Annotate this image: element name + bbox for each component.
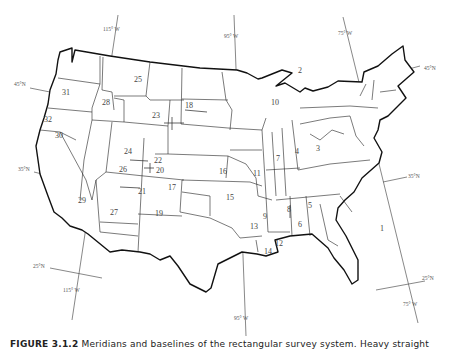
meridian-number-26: 26 — [119, 166, 127, 174]
meridian-number-28: 28 — [102, 99, 110, 107]
meridian-number-13: 13 — [250, 223, 258, 231]
meridian-number-17: 17 — [168, 184, 176, 192]
figure-caption-text: Meridians and baselines of the rectangul… — [82, 339, 429, 349]
meridian-number-10: 10 — [271, 99, 279, 107]
parallel-35n-right — [383, 177, 407, 182]
meridian-label-95w-bottom: 95° W — [234, 316, 248, 322]
meridian-label-115w-top: 115° W — [103, 27, 120, 33]
meridian-number-22: 22 — [154, 157, 162, 165]
meridian-number-24: 24 — [124, 148, 132, 156]
meridian-number-15: 15 — [226, 194, 234, 202]
meridian-number-5: 5 — [308, 202, 312, 210]
meridian-label-75w-top: 75° W — [338, 31, 352, 37]
meridian-number-29: 29 — [78, 197, 86, 205]
meridian-number-21: 21 — [138, 188, 146, 196]
parallel-label-25n-left: 25°N — [33, 264, 45, 270]
meridian-number-2: 2 — [298, 67, 302, 75]
parallel-label-35n-right: 35°N — [408, 174, 420, 180]
meridian-number-25: 25 — [134, 76, 142, 84]
meridian-number-1: 1 — [380, 225, 384, 233]
meridian-number-11: 11 — [253, 170, 261, 178]
meridian-number-3: 3 — [316, 145, 320, 153]
meridian-label-115w-bottom: 115° W — [63, 288, 80, 294]
meridian-number-14: 14 — [264, 248, 272, 256]
figure-caption-label: FIGURE 3.1.2 — [10, 339, 78, 349]
meridian-number-30: 30 — [55, 132, 63, 140]
meridian-number-9: 9 — [263, 213, 267, 221]
parallel-label-35n-left: 35°N — [18, 167, 30, 173]
meridian-label-75w-bottom: 75° W — [403, 302, 417, 308]
meridian-number-7: 7 — [276, 155, 280, 163]
parallel-label-25n-right: 25°N — [422, 276, 434, 282]
meridian-number-6: 6 — [298, 221, 302, 229]
meridian-number-4: 4 — [295, 148, 299, 156]
meridian-number-31: 31 — [62, 89, 70, 97]
parallel-25n-right — [376, 281, 425, 290]
parallel-label-45n-right: 45°N — [424, 66, 436, 72]
meridian-number-20: 20 — [156, 167, 164, 175]
meridian-number-12: 12 — [275, 240, 283, 248]
meridian-number-19: 19 — [155, 210, 163, 218]
meridian-label-95w-top: 95° W — [224, 34, 238, 40]
parallel-label-45n-left: 45°N — [14, 82, 26, 88]
figure-caption: FIGURE 3.1.2 Meridians and baselines of … — [10, 339, 450, 349]
meridian-number-27: 27 — [110, 209, 118, 217]
meridian-number-18: 18 — [185, 102, 193, 110]
meridian-number-8: 8 — [287, 206, 291, 214]
parallel-25n-left — [50, 268, 102, 278]
meridian-number-32: 32 — [44, 116, 52, 124]
meridian-number-16: 16 — [219, 168, 227, 176]
meridian-number-23: 23 — [152, 112, 160, 120]
